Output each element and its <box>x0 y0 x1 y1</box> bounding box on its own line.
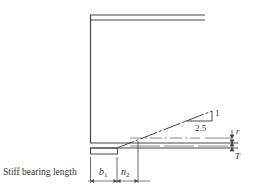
beam-diagram: 1 2.5 r T Stiff bearing length b1 n2 <box>0 0 254 196</box>
T-label: T <box>235 151 241 161</box>
top-flange <box>90 15 205 20</box>
b1-label: b1 <box>99 166 108 179</box>
n2-label: n2 <box>121 166 130 179</box>
fillet-lines <box>130 138 232 146</box>
extension-lines <box>91 141 139 183</box>
slope-rise-label: 1 <box>215 108 220 118</box>
bearing-plate <box>91 148 118 154</box>
slope-run-label: 2.5 <box>195 123 207 133</box>
r-label: r <box>236 126 240 136</box>
stiff-bearing-label: Stiff bearing length <box>3 167 77 177</box>
